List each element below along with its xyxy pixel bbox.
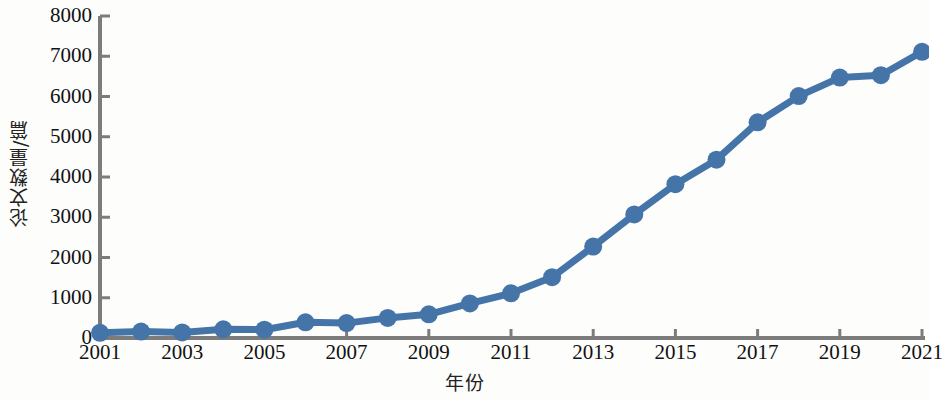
data-point: 2007: 370 [338,314,356,332]
data-point: 2015: 3820 [666,175,684,193]
data-point: 2009: 590 [420,305,438,323]
data-point: 2008: 500 [379,309,397,327]
data-point: 2020: 6530 [872,66,890,84]
data-point: 2018: 6010 [790,87,808,105]
x-tick-label: 2005 [229,340,299,364]
data-point: 2004: 215 [214,320,232,338]
data-point: 2017: 5360 [749,113,767,131]
series-markers: 2001: 1302002: 1602003: 1402004: 2152005… [91,43,929,342]
x-axis-title: 年份 [0,368,929,395]
data-point: 2013: 2270 [584,238,602,256]
x-tick-label: 2003 [147,340,217,364]
x-tick-label: 2001 [65,340,135,364]
x-tick-label: 2013 [558,340,628,364]
data-point: 2005: 205 [255,321,273,339]
data-point: 2016: 4430 [708,151,726,169]
x-tick-label: 2015 [640,340,710,364]
x-tick-label: 2007 [312,340,382,364]
data-point: 2014: 3070 [625,205,643,223]
data-point: 2010: 860 [461,294,479,312]
data-series: 2001: 1302002: 1602003: 1402004: 2152005… [91,43,929,342]
data-point: 2002: 160 [132,323,150,341]
x-tick-label: 2017 [723,340,793,364]
data-point: 2006: 390 [297,313,315,331]
data-point: 2019: 6470 [831,69,849,87]
x-tick-label: 2011 [476,340,546,364]
data-point: 2003: 140 [173,323,191,341]
x-tick-label: 2021 [887,340,947,364]
x-tick-label: 2009 [394,340,464,364]
data-point: 2012: 1510 [543,268,561,286]
data-point: 2011: 1110 [502,284,520,302]
x-tick-label: 2019 [805,340,875,364]
